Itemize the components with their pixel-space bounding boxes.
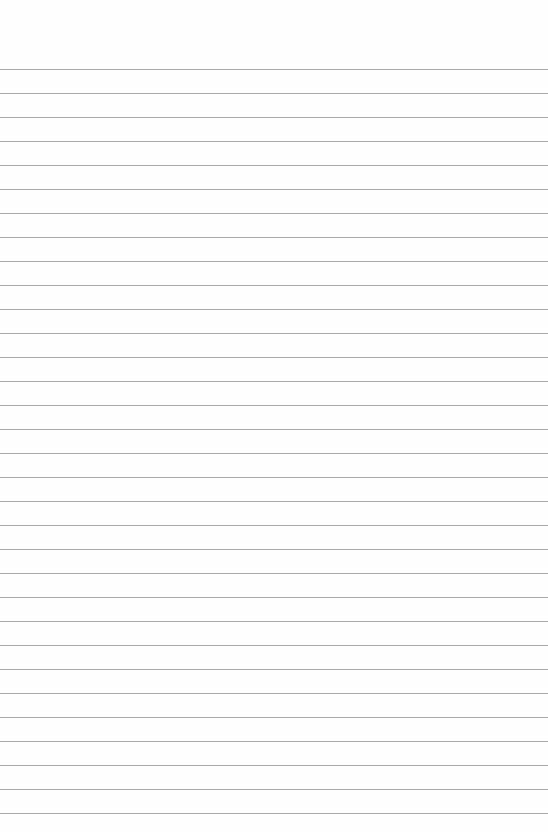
ruled-line bbox=[0, 717, 548, 718]
ruled-line bbox=[0, 69, 548, 70]
ruled-line bbox=[0, 117, 548, 118]
ruled-line bbox=[0, 405, 548, 406]
ruled-line bbox=[0, 453, 548, 454]
ruled-line bbox=[0, 573, 548, 574]
ruled-line bbox=[0, 741, 548, 742]
ruled-line bbox=[0, 333, 548, 334]
ruled-line bbox=[0, 93, 548, 94]
ruled-line bbox=[0, 165, 548, 166]
ruled-line bbox=[0, 789, 548, 790]
ruled-line bbox=[0, 189, 548, 190]
ruled-line bbox=[0, 141, 548, 142]
ruled-line bbox=[0, 765, 548, 766]
ruled-line bbox=[0, 669, 548, 670]
ruled-line bbox=[0, 429, 548, 430]
ruled-line bbox=[0, 693, 548, 694]
lined-paper bbox=[0, 0, 548, 832]
ruled-line bbox=[0, 285, 548, 286]
ruled-line bbox=[0, 549, 548, 550]
ruled-line bbox=[0, 381, 548, 382]
ruled-line bbox=[0, 501, 548, 502]
ruled-line bbox=[0, 477, 548, 478]
ruled-line bbox=[0, 213, 548, 214]
ruled-line bbox=[0, 621, 548, 622]
ruled-line bbox=[0, 645, 548, 646]
ruled-line bbox=[0, 525, 548, 526]
ruled-line bbox=[0, 237, 548, 238]
ruled-line bbox=[0, 357, 548, 358]
ruled-line bbox=[0, 813, 548, 814]
ruled-line bbox=[0, 261, 548, 262]
ruled-line bbox=[0, 597, 548, 598]
ruled-line bbox=[0, 309, 548, 310]
